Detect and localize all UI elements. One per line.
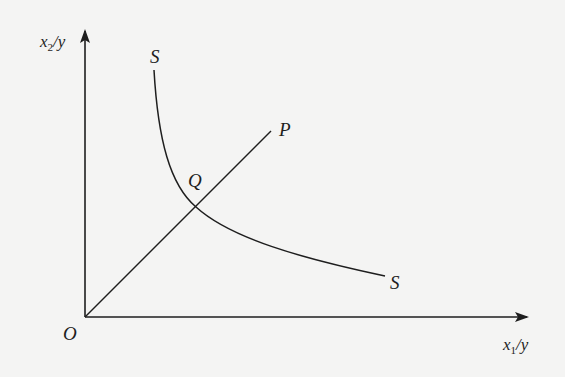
intersection-label-q: Q: [188, 170, 202, 191]
curve-label-bottom: S: [390, 272, 400, 293]
ray-op: [85, 131, 271, 317]
curve-label-top: S: [150, 46, 160, 67]
x-axis-label: x1/y: [502, 335, 529, 356]
ray-label-p: P: [278, 119, 291, 140]
y-axis-label: x2/y: [39, 32, 66, 53]
isoquant-diagram: x2/y x1/y O S S P Q: [0, 0, 565, 377]
diagram-canvas: x2/y x1/y O S S P Q: [0, 0, 565, 377]
origin-label: O: [63, 323, 77, 344]
